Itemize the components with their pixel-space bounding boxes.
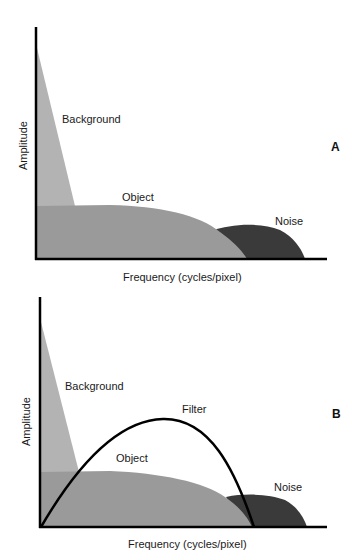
figure: Background Object Noise Frequency (cycle… (0, 0, 352, 560)
object-area (37, 205, 247, 259)
noise-label: Noise (275, 215, 303, 227)
panel-b: Background Filter Object Noise Frequency… (20, 297, 341, 550)
panel-letter: A (331, 140, 340, 154)
background-label: Background (62, 113, 121, 125)
object-label: Object (122, 191, 154, 203)
x-axis-label: Frequency (cycles/pixel) (123, 271, 242, 283)
y-axis-label: Amplitude (20, 397, 32, 446)
noise-label: Noise (274, 481, 302, 493)
y-axis-label: Amplitude (17, 121, 29, 170)
background-area (41, 322, 79, 472)
background-area (37, 48, 75, 206)
panel-letter: B (332, 407, 341, 421)
panel-a: Background Object Noise Frequency (cycle… (17, 27, 340, 283)
x-axis-label: Frequency (cycles/pixel) (128, 538, 247, 550)
object-label: Object (116, 452, 148, 464)
filter-label: Filter (182, 403, 207, 415)
background-label: Background (65, 380, 124, 392)
